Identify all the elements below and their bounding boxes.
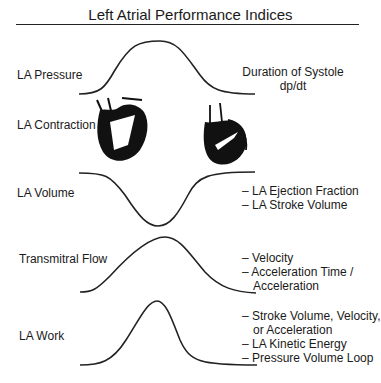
row-label-la-pressure: LA Pressure — [17, 68, 82, 82]
row-label-transmitral-flow: Transmitral Flow — [19, 252, 107, 266]
row-label-la-work: LA Work — [19, 329, 64, 343]
heart-illustration-diastole — [97, 98, 147, 161]
la-work-curve — [80, 301, 257, 365]
row-label-la-volume: LA Volume — [17, 186, 74, 200]
heart-illustration-systole — [204, 103, 247, 164]
la-volume-curve — [79, 172, 255, 226]
la-pressure-curve — [79, 41, 255, 94]
notes-la-pressure: Duration of Systole dp/dt — [238, 65, 348, 93]
notes-la-volume: – LA Ejection Fraction – LA Stroke Volum… — [242, 184, 359, 212]
notes-la-work: – Stroke Volume, Velocity, or Accelerati… — [242, 309, 381, 365]
notes-transmitral-flow: – Velocity – Acceleration Time / Acceler… — [242, 251, 353, 293]
row-label-la-contraction: LA Contraction — [17, 118, 96, 132]
